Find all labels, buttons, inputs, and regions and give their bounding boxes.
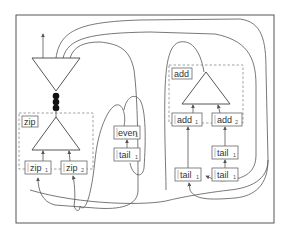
- add-right-tail1-label: tail: [217, 148, 229, 158]
- zip2-label: zip: [66, 163, 78, 173]
- add1-label: add: [177, 115, 192, 125]
- add-group-label: add: [174, 69, 189, 79]
- add2-label: add: [217, 115, 232, 125]
- zip-triangle: [32, 117, 80, 150]
- add2-arrow: [218, 105, 220, 113]
- wire-zip2-in: [73, 176, 75, 206]
- zip2-arrow: [69, 151, 70, 161]
- even1-sub: 1: [135, 132, 138, 138]
- add-right-tail2-label: tail: [217, 170, 229, 180]
- add-right-tail2-sub: 1: [233, 174, 236, 180]
- zip1-label: zip: [30, 163, 42, 173]
- even-tail1-sub: 1: [135, 154, 138, 160]
- dot-2: [53, 99, 60, 106]
- stream-diagram: zip zip 1 zip 2 even 1 tail 1 add add 1 …: [0, 0, 308, 247]
- add-right-tail1-sub: 1: [233, 152, 236, 158]
- zip-group-label: zip: [24, 117, 36, 127]
- zip1-sub: 1: [45, 167, 48, 173]
- add2-sub: 2: [235, 119, 238, 125]
- add-left-tail1-label: tail: [180, 170, 192, 180]
- dot-1: [53, 93, 60, 100]
- add1-sub: 1: [195, 119, 198, 125]
- even-tail1-label: tail: [119, 150, 131, 160]
- add-left-tail1-sub: 1: [196, 174, 199, 180]
- merge-triangle: [32, 58, 80, 91]
- zip2-sub: 2: [81, 167, 84, 173]
